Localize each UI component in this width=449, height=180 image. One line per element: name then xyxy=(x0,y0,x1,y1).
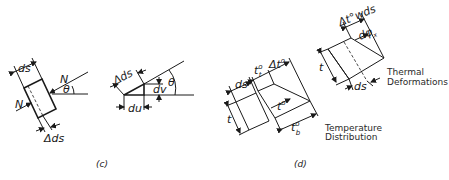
td-ds-arrow-left xyxy=(345,86,352,89)
dv-label: dv xyxy=(153,83,167,96)
left-edge xyxy=(328,49,349,79)
element-rectangle xyxy=(24,79,56,118)
deformation-triangle: Δds dv du θ xyxy=(110,61,194,115)
temperature-distribution-title-line2: Distribution xyxy=(325,132,378,142)
axial-element: ds Δds N N θ xyxy=(14,58,88,145)
structural-diagram: ds Δds N N θ Δds xyxy=(0,0,449,180)
panel-d: ds t tot Δto to tob Temperature xyxy=(226,2,448,169)
theta-arc xyxy=(72,86,74,94)
delta-t-label: Δto xyxy=(268,57,285,71)
tb-label: tob xyxy=(291,120,301,137)
tt-label: tot xyxy=(254,63,263,79)
ds-ext-right xyxy=(32,58,42,79)
td-ds-ext-left xyxy=(349,79,353,90)
td-ds-arrow-right xyxy=(371,78,380,82)
td-ds-label: ds xyxy=(354,80,367,93)
thermal-deformations-title-line1: Thermal xyxy=(386,67,424,77)
sec-ds-label: ds xyxy=(235,78,248,91)
panel-c: ds Δds N N θ Δds xyxy=(14,58,194,169)
thermal-deformations: Δt°wds dφx t ds Thermal Deformations xyxy=(318,2,448,93)
dds-arrow-left xyxy=(36,128,44,131)
td-t-label: t xyxy=(319,61,324,74)
dds-ext-right xyxy=(43,116,52,130)
section-rectangle xyxy=(236,93,269,130)
theta-label: θ xyxy=(63,83,70,96)
dtw-label: Δt°wds xyxy=(336,2,378,29)
ds-label: ds xyxy=(18,62,31,75)
tri-dds-label: Δds xyxy=(110,66,135,88)
tri-theta-label: θ xyxy=(168,76,175,89)
td-t-ext-bottom xyxy=(336,79,349,85)
tri-dds-arrow-right xyxy=(138,70,146,73)
dds-arrow-right xyxy=(51,124,60,127)
td-t-ext-top xyxy=(318,49,328,53)
t-mid-label: to xyxy=(277,99,286,113)
triangle xyxy=(124,84,144,95)
tb-ext-right xyxy=(310,101,318,116)
deformation-profile xyxy=(328,38,384,79)
thermal-deformations-title-line2: Deformations xyxy=(387,77,448,87)
sec-t-label: t xyxy=(227,113,232,126)
du-label: du xyxy=(128,102,142,115)
profile-ext-long xyxy=(289,58,310,101)
sec-t-ext-top xyxy=(226,102,236,106)
panel-d-caption: (d) xyxy=(294,159,307,169)
n-label-left: N xyxy=(15,98,23,111)
tb-ext xyxy=(275,118,281,131)
dds-label: Δds xyxy=(43,132,65,145)
temperature-distribution: tot Δto to tob Temperature Distribution xyxy=(252,57,382,142)
sec-t-ext-bottom xyxy=(239,130,249,135)
panel-c-caption: (c) xyxy=(96,159,108,169)
element-section: ds t xyxy=(226,77,269,135)
inclined-line xyxy=(144,61,184,84)
